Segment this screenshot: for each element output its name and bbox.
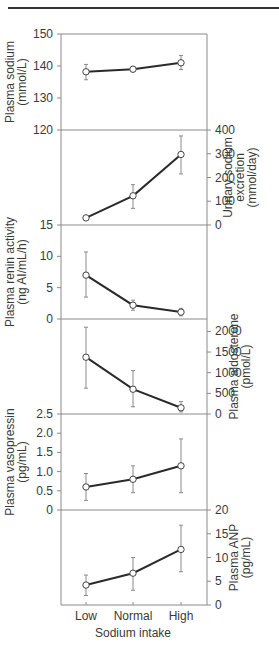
data-point-marker <box>130 302 136 308</box>
y-axis-title: (mmol/L) <box>15 58 29 105</box>
data-point-marker <box>130 386 136 392</box>
y-tick-label: 140 <box>33 59 53 73</box>
panel-plasma-sodium: 120130140150Plasma sodium(mmol/L) <box>3 27 207 137</box>
data-point-marker <box>178 405 184 411</box>
x-tick-high: High <box>169 609 194 623</box>
y-tick-label: 0 <box>46 312 53 326</box>
x-axis-title: Sodium intake <box>95 626 171 640</box>
y-tick-label: 400 <box>215 123 235 137</box>
data-point-marker <box>83 582 89 588</box>
y-tick-label: 15 <box>40 218 54 232</box>
panel-urinary-sodium-excretion: 0100200300400Urinary sodiumexcretion(mmo… <box>61 123 259 232</box>
chart-panels: 120130140150Plasma sodium(mmol/L)0100200… <box>3 27 259 612</box>
y-tick-label: 1.0 <box>36 465 53 479</box>
y-tick-label: 2.0 <box>36 426 53 440</box>
y-axis-title: (mmol/day) <box>245 147 259 207</box>
data-point-marker <box>83 215 89 221</box>
y-tick-label: 0.5 <box>36 484 53 498</box>
y-tick-label: 0 <box>46 503 53 517</box>
y-tick-label: 2.5 <box>36 407 53 421</box>
panel-plasma-vasopressin: 00.51.01.52.02.5Plasma vasopressin(pg/mL… <box>3 407 207 517</box>
y-tick-label: 5 <box>46 281 53 295</box>
y-tick-label: 5 <box>215 574 222 588</box>
data-point-marker <box>83 272 89 278</box>
data-point-marker <box>178 309 184 315</box>
data-point-marker <box>178 546 184 552</box>
y-axis-title: (pg/mL) <box>239 537 253 578</box>
data-point-marker <box>83 484 89 490</box>
data-point-marker <box>130 476 136 482</box>
panel-plasma-renin-activity: 051015Plasma renin activity(ng AI/mL/h) <box>3 217 207 327</box>
y-axis-title: (pg/mL) <box>15 441 29 482</box>
data-point-marker <box>178 60 184 66</box>
y-tick-label: 10 <box>40 249 54 263</box>
data-point-marker <box>178 151 184 157</box>
data-point-marker <box>83 354 89 360</box>
data-point-marker <box>130 193 136 199</box>
data-point-marker <box>178 463 184 469</box>
x-tick-normal: Normal <box>114 609 153 623</box>
y-axis-title: (ng AI/mL/h) <box>15 239 29 304</box>
x-tick-low: Low <box>75 609 97 623</box>
data-point-marker <box>130 570 136 576</box>
y-tick-label: 0 <box>215 407 222 421</box>
stacked-line-chart: 120130140150Plasma sodium(mmol/L)0100200… <box>0 0 279 648</box>
data-point-marker <box>130 66 136 72</box>
y-tick-label: 0 <box>215 218 222 232</box>
y-tick-label: 120 <box>33 123 53 137</box>
panel-plasma-aldosterone: 0500100015002000Plasma aldosterone(pmol/… <box>61 313 253 421</box>
y-tick-label: 150 <box>33 27 53 41</box>
y-tick-label: 1.5 <box>36 445 53 459</box>
x-axis: Low Normal High Sodium intake <box>75 609 193 640</box>
panel-plasma-anp: 05101520Plasma ANP(pg/mL) <box>61 503 253 612</box>
y-tick-label: 130 <box>33 91 53 105</box>
y-tick-label: 0 <box>215 598 222 612</box>
data-point-marker <box>83 69 89 75</box>
y-axis-title: (pmol/L) <box>239 344 253 388</box>
y-tick-label: 20 <box>215 503 229 517</box>
